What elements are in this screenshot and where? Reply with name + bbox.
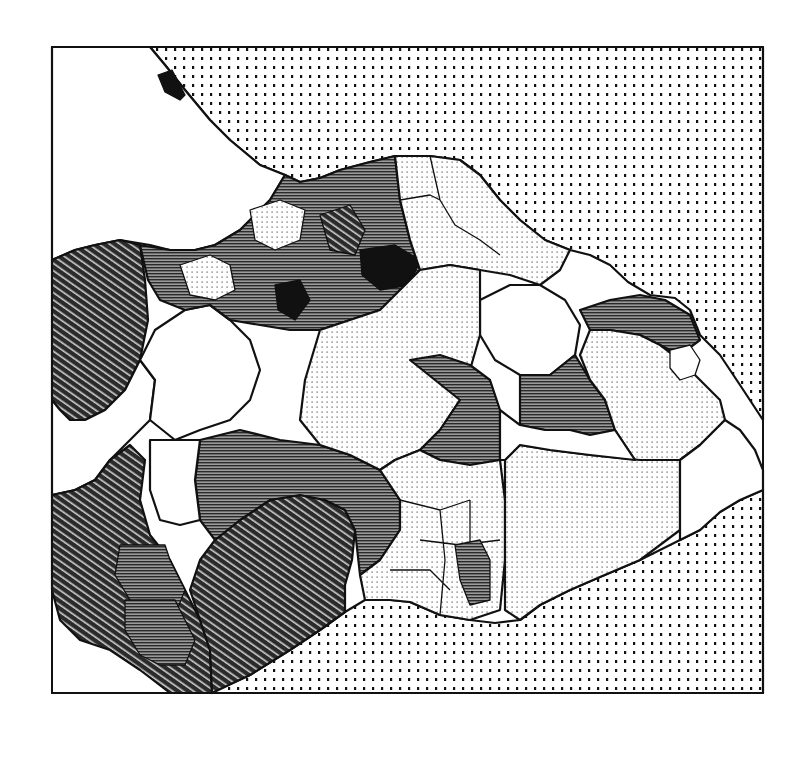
region-center-white-2 bbox=[150, 440, 200, 525]
choropleth-map bbox=[0, 0, 805, 764]
map-canvas bbox=[0, 0, 805, 764]
